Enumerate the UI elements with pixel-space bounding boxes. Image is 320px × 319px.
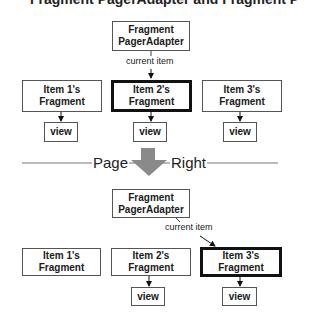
fragment-line2: Fragment bbox=[39, 262, 85, 274]
fragment-line2: Fragment bbox=[128, 262, 174, 274]
adapter-line2: PagerAdapter bbox=[118, 204, 184, 216]
item2-view-after: view bbox=[131, 287, 165, 306]
page-right-arrow-icon bbox=[130, 147, 170, 178]
item3-view-after: view bbox=[222, 287, 257, 306]
right-label: Right bbox=[170, 155, 207, 171]
adapter-line2: PagerAdapter bbox=[118, 36, 184, 48]
fragment-line1: Item 1's bbox=[44, 84, 81, 96]
item1-view-before: view bbox=[44, 122, 78, 142]
fragment-line1: Item 1's bbox=[43, 250, 80, 262]
fragment-line2: Fragment bbox=[219, 96, 265, 108]
item3-fragment-before: Item 3's Fragment bbox=[202, 80, 282, 112]
item2-view-before: view bbox=[133, 122, 167, 142]
fragment-line1: Item 2's bbox=[133, 84, 170, 96]
fragment-line2: Fragment bbox=[39, 96, 85, 108]
current-item-label-before: current item bbox=[126, 56, 174, 66]
fragment-line2: Fragment bbox=[218, 262, 264, 274]
fragment-line1: Item 2's bbox=[133, 250, 170, 262]
item3-view-before: view bbox=[223, 122, 257, 142]
fragment-line1: Item 3's bbox=[224, 84, 261, 96]
item2-fragment-after: Item 2's Fragment bbox=[111, 248, 191, 276]
item2-fragment-before-current: Item 2's Fragment bbox=[111, 80, 192, 112]
item1-fragment-after: Item 1's Fragment bbox=[22, 248, 101, 276]
adapter-line1: Fragment bbox=[128, 24, 174, 36]
adapter-line1: Fragment bbox=[128, 192, 174, 204]
current-item-label-after: current item bbox=[165, 222, 213, 232]
adapter-box-after: Fragment PagerAdapter bbox=[112, 189, 190, 218]
fragment-line1: Item 3's bbox=[223, 250, 260, 262]
item3-fragment-after-current: Item 3's Fragment bbox=[200, 247, 282, 277]
item1-fragment-before: Item 1's Fragment bbox=[22, 80, 102, 112]
adapter-box-before: Fragment PagerAdapter bbox=[112, 21, 190, 51]
page-label: Page bbox=[92, 155, 129, 171]
fragment-line2: Fragment bbox=[129, 96, 175, 108]
